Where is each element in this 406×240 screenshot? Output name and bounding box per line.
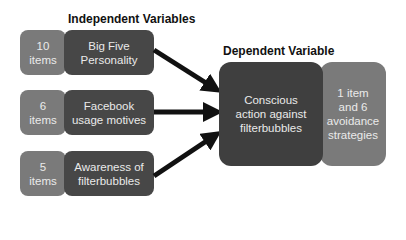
arrow-1 <box>154 50 214 88</box>
dependent-variable-heading: Dependent Variable <box>223 44 334 58</box>
measure-line: and 6 <box>327 100 379 114</box>
dependent-measure-box: 1 itemand 6avoidancestrategies <box>320 62 386 166</box>
dependent-label-line: filterbubbles <box>236 121 307 135</box>
dependent-label-line: Conscious <box>236 93 307 107</box>
dependent-variable-box: Consciousaction againstfilterbubbles <box>219 62 323 166</box>
arrow-3 <box>154 136 214 176</box>
measure-line: strategies <box>327 128 379 142</box>
measure-line: 1 item <box>327 86 379 100</box>
measure-line: avoidance <box>327 114 379 128</box>
dependent-label-line: action against <box>236 107 307 121</box>
